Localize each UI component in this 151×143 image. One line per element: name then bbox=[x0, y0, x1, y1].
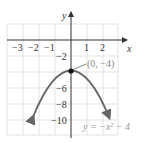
y-axis-label: y bbox=[61, 10, 67, 21]
x-axis-label: x bbox=[126, 43, 132, 54]
x-tick-label: 1 bbox=[84, 42, 89, 53]
y-tick-label: −8 bbox=[56, 99, 67, 110]
vertex-point bbox=[68, 68, 73, 73]
x-tick-label: −1 bbox=[44, 42, 55, 53]
x-tick-label: −2 bbox=[28, 42, 39, 53]
equation-label: y = −x² − 4 bbox=[82, 121, 130, 132]
parabola-chart: x y −3 −2 −1 1 2 −2 −6 −8 −10 (0, −4) y … bbox=[0, 0, 151, 143]
y-tick-label: −2 bbox=[56, 51, 67, 62]
vertex-label: (0, −4) bbox=[87, 58, 114, 70]
x-tick-label: 2 bbox=[100, 42, 105, 53]
x-tick-label: −3 bbox=[12, 42, 23, 53]
y-tick-label: −10 bbox=[51, 115, 67, 126]
vertex-leader-line bbox=[72, 64, 86, 70]
y-tick-label: −6 bbox=[56, 83, 67, 94]
